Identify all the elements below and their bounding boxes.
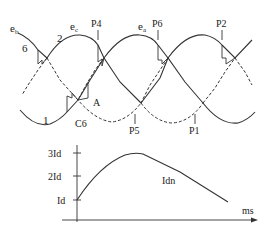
label-1: 1 bbox=[43, 114, 49, 126]
label-p5: P5 bbox=[129, 125, 140, 136]
label-p2: P2 bbox=[216, 18, 227, 29]
label-eb: eb bbox=[10, 22, 19, 36]
label-6: 6 bbox=[22, 42, 28, 54]
label-a: A bbox=[93, 97, 101, 108]
current-graph: 3Id 2Id Id ms Idn bbox=[48, 145, 258, 223]
label-ec: ec bbox=[70, 20, 78, 34]
commutation-diagram: eb ec ea 6 2 1 P4 P6 P2 P5 P1 C6 A 3Id 2… bbox=[0, 0, 272, 241]
tick-3id: 3Id bbox=[48, 148, 61, 159]
label-p6: P6 bbox=[152, 18, 163, 29]
label-c6: C6 bbox=[75, 118, 87, 129]
label-ea: ea bbox=[138, 20, 147, 34]
dashed-curves bbox=[22, 58, 252, 123]
x-axis-arrow-icon bbox=[251, 218, 258, 223]
tick-2id: 2Id bbox=[48, 171, 61, 182]
label-2: 2 bbox=[57, 32, 63, 44]
idn-curve bbox=[77, 153, 228, 202]
x-axis-label-ms: ms bbox=[242, 205, 254, 216]
label-p4: P4 bbox=[91, 18, 102, 29]
label-p1: P1 bbox=[189, 125, 200, 136]
positive-envelope bbox=[18, 33, 252, 58]
idn-label: Idn bbox=[162, 175, 175, 186]
phase-waveforms bbox=[18, 30, 255, 125]
negative-envelope bbox=[20, 58, 255, 125]
tick-id: Id bbox=[57, 195, 65, 206]
